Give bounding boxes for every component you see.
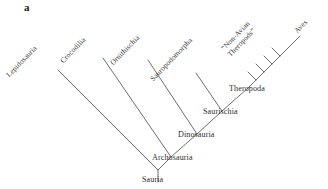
branch-non-avian-theropod-1 (248, 72, 256, 80)
node-label-archosauria: Archosauria (152, 153, 193, 162)
cladogram-figure: a Lepidosauria Crocodilia Ornithischia (0, 0, 328, 189)
node-label-sauria: Sauria (142, 175, 163, 184)
branch-to-sauropodomorpha (196, 73, 222, 111)
branch-non-avian-theropod-2 (256, 64, 264, 72)
node-label-theropoda: Theropoda (229, 84, 265, 93)
node-label-dinosauria: Dinosauria (178, 130, 215, 139)
branch-non-avian-theropod-4 (272, 48, 280, 56)
branch-non-avian-theropod-3 (264, 56, 272, 64)
node-label-saurischia: Saurischia (203, 107, 238, 116)
branch-to-lepidosauria (58, 70, 158, 170)
